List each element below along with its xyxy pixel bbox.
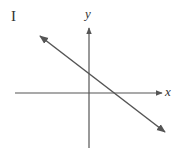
decreasing-line	[40, 36, 165, 132]
axes-and-line	[0, 0, 183, 158]
